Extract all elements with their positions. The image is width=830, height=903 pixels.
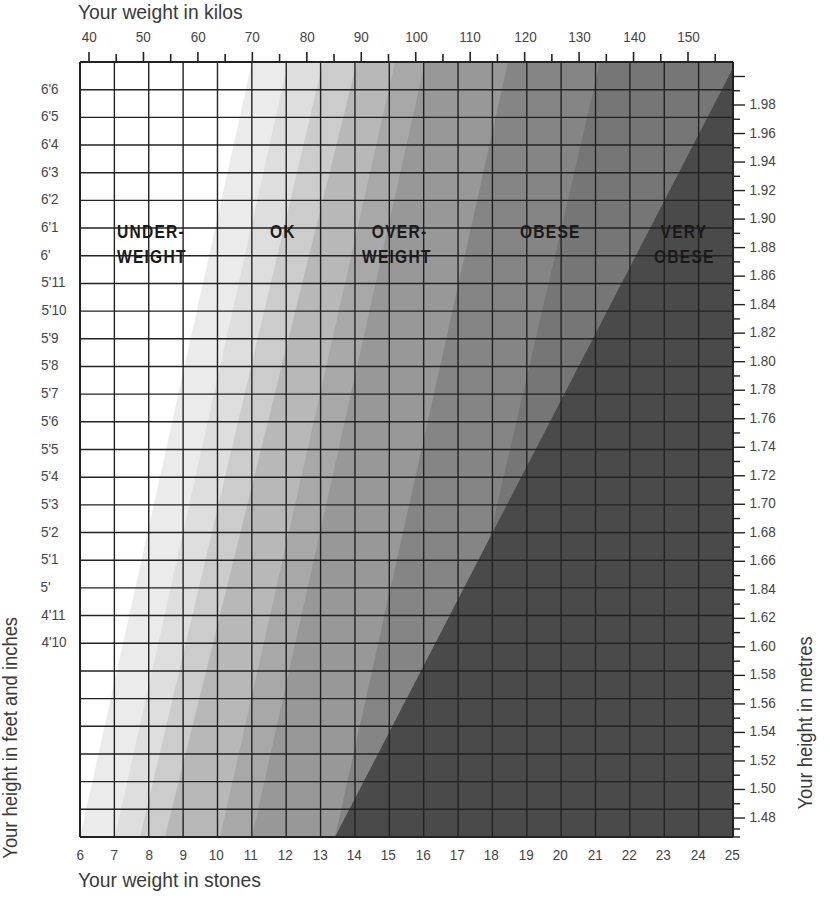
height-ft-tick-label: 6'4 [41, 135, 59, 152]
height-ft-tick-label: 5'6 [41, 412, 59, 429]
kg-tick-label: 130 [568, 28, 591, 45]
height-ft-tick-label: 6'3 [41, 163, 59, 180]
height-m-tick-label: 1.60 [749, 637, 775, 654]
stone-tick-label: 18 [484, 846, 499, 863]
stone-tick-label: 8 [145, 846, 153, 863]
stone-tick-label: 9 [180, 846, 188, 863]
height-m-tick-label: 1.90 [749, 209, 775, 226]
kg-tick-label: 60 [191, 28, 206, 45]
zone-underweight-line2: WEIGHT [117, 244, 187, 269]
kg-tick-label: 140 [623, 28, 646, 45]
height-m-tick-label: 1.78 [749, 380, 775, 397]
height-ft-tick-label: 5'8 [41, 356, 59, 373]
stone-tick-label: 22 [622, 846, 637, 863]
height-m-tick-label: 1.72 [749, 466, 775, 483]
kg-tick-label: 100 [405, 28, 428, 45]
height-ft-tick-label: 5'2 [41, 523, 59, 540]
kg-tick-label: 40 [82, 28, 97, 45]
height-ft-tick-label: 5'9 [41, 329, 59, 346]
height-ft-tick-label: 4'10 [41, 633, 66, 650]
stone-tick-label: 14 [347, 846, 362, 863]
stone-tick-label: 11 [244, 846, 258, 863]
height-m-tick-label: 1.94 [749, 152, 775, 169]
height-m-tick-label: 1.98 [749, 95, 775, 112]
height-m-tick-label: 1.96 [749, 124, 775, 141]
kg-tick-label: 70 [245, 28, 260, 45]
kg-tick-label: 80 [300, 28, 315, 45]
height-m-tick-label: 1.56 [749, 694, 775, 711]
kg-tick-label: 110 [459, 28, 481, 45]
height-m-tick-label: 1.80 [749, 352, 775, 369]
height-m-tick-label: 1.82 [749, 323, 775, 340]
height-ft-tick-label: 5'5 [41, 440, 59, 457]
zone-label-ok: OK [270, 219, 296, 244]
zone-obese-line1: OBESE [520, 219, 581, 244]
kg-tick-label: 120 [514, 28, 537, 45]
zone-label-very-obese: VERY OBESE [654, 219, 715, 269]
stone-tick-label: 13 [312, 846, 327, 863]
height-m-tick-label: 1.86 [749, 266, 775, 283]
height-m-tick-label: 1.84 [749, 295, 775, 312]
zone-very-obese-line2: OBESE [654, 244, 715, 269]
kg-tick-label: 150 [677, 28, 700, 45]
stone-tick-label: 24 [690, 846, 705, 863]
height-ft-tick-label: 6'2 [41, 190, 59, 207]
zone-label-underweight: UNDER- WEIGHT [117, 219, 187, 269]
height-m-tick-label: 1.50 [749, 779, 775, 796]
height-ft-tick-label: 5' [41, 578, 51, 595]
stone-tick-label: 15 [381, 846, 396, 863]
stone-tick-label: 19 [519, 846, 534, 863]
kg-tick-label: 50 [136, 28, 151, 45]
height-m-tick-label: 1.84 [749, 580, 775, 597]
stone-tick-label: 12 [278, 846, 293, 863]
zone-label-obese: OBESE [520, 219, 581, 244]
height-m-tick-label: 1.52 [749, 751, 775, 768]
zone-overweight-line2: WEIGHT [362, 244, 432, 269]
stone-tick-label: 16 [416, 846, 431, 863]
height-ft-tick-label: 5'7 [41, 384, 59, 401]
height-ft-tick-label: 6'6 [41, 80, 59, 97]
stone-tick-label: 21 [587, 846, 602, 863]
stone-tick-label: 7 [111, 846, 119, 863]
height-m-tick-label: 1.76 [749, 409, 775, 426]
height-m-tick-label: 1.48 [749, 808, 775, 825]
stone-tick-label: 20 [553, 846, 568, 863]
height-ft-tick-label: 4'11 [41, 606, 65, 623]
height-ft-tick-label: 5'3 [41, 495, 59, 512]
stone-tick-label: 25 [725, 846, 740, 863]
zone-ok-line1: OK [270, 219, 296, 244]
height-ft-tick-label: 5'4 [41, 467, 59, 484]
height-m-tick-label: 1.92 [749, 181, 775, 198]
height-ft-tick-label: 5'10 [41, 301, 66, 318]
zone-overweight-line1: OVER- [362, 219, 432, 244]
stone-tick-label: 10 [209, 846, 224, 863]
height-m-tick-label: 1.70 [749, 494, 775, 511]
height-ft-tick-label: 6'5 [41, 107, 59, 124]
kg-tick-label: 90 [354, 28, 369, 45]
stone-tick-label: 17 [450, 846, 465, 863]
height-m-tick-label: 1.68 [749, 523, 775, 540]
height-ft-tick-label: 6'1 [41, 218, 59, 235]
zone-underweight-line1: UNDER- [117, 219, 187, 244]
height-ft-tick-label: 5'11 [41, 273, 65, 290]
height-m-tick-label: 1.88 [749, 238, 775, 255]
stone-tick-label: 23 [656, 846, 671, 863]
height-m-tick-label: 1.58 [749, 665, 775, 682]
zone-label-overweight: OVER- WEIGHT [362, 219, 432, 269]
height-m-tick-label: 1.66 [749, 551, 775, 568]
zone-very-obese-line1: VERY [654, 219, 715, 244]
height-m-tick-label: 1.54 [749, 722, 775, 739]
height-m-tick-label: 1.62 [749, 608, 775, 625]
height-ft-tick-label: 6' [41, 246, 51, 263]
chart-plot-area [0, 0, 830, 903]
stone-tick-label: 6 [76, 846, 84, 863]
height-m-tick-label: 1.74 [749, 437, 775, 454]
height-ft-tick-label: 5'1 [41, 550, 59, 567]
